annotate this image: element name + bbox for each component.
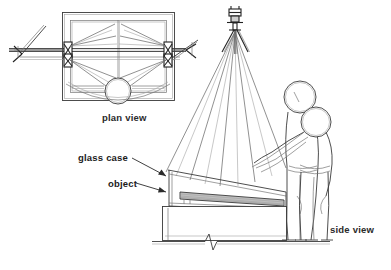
plinth-base xyxy=(163,207,287,241)
plan-view-group xyxy=(9,13,198,105)
glass-case-leader xyxy=(132,158,166,176)
diagram-canvas: plan view xyxy=(0,0,391,270)
object-leader xyxy=(136,183,166,193)
plan-view-label: plan view xyxy=(102,112,147,123)
diagram-svg: plan view xyxy=(0,0,391,270)
side-view-label: side view xyxy=(330,224,374,235)
plan-left-arm xyxy=(9,25,64,62)
instrument-on-tripod xyxy=(222,6,250,54)
glass-case-label: glass case xyxy=(78,152,128,163)
side-view-group xyxy=(152,6,333,250)
glass-case xyxy=(168,170,286,212)
object-label: object xyxy=(108,178,138,189)
